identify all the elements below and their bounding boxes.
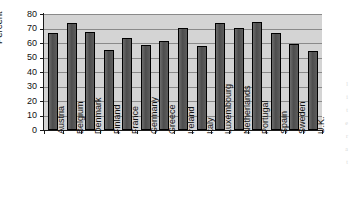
scan-artifact-mark: e bbox=[345, 119, 348, 127]
x-axis-tick-label: Denmark bbox=[94, 97, 103, 134]
y-axis-tick-label: 30 bbox=[27, 82, 37, 91]
scan-artifact-mark: a bbox=[345, 145, 348, 153]
scan-artifact-mark: r bbox=[346, 132, 348, 140]
y-axis-title: Percent bbox=[0, 11, 4, 44]
x-axis-tick-label: Austria bbox=[57, 106, 66, 134]
scan-artifact-mark: i bbox=[346, 93, 348, 101]
x-axis-tick-label: U.K. bbox=[317, 116, 326, 134]
y-axis-tick-label: 40 bbox=[27, 68, 37, 77]
scan-artifact-mark: t bbox=[346, 106, 348, 114]
x-axis-tick-label: Italy bbox=[206, 117, 215, 134]
y-axis-tick-label: 50 bbox=[27, 53, 37, 62]
x-axis-tick-label: Belgium bbox=[76, 101, 85, 134]
x-axis-tick-label: Netherlands bbox=[243, 85, 252, 134]
x-axis-tick-label: Portugal bbox=[261, 100, 270, 134]
x-axis-tick-label: Luxembourg bbox=[224, 84, 233, 134]
x-axis-tick-label: Finland bbox=[113, 104, 122, 134]
x-axis-tick bbox=[44, 131, 45, 134]
y-axis-tick-label: 80 bbox=[27, 10, 37, 19]
y-axis-tick-label: 0 bbox=[32, 126, 37, 135]
x-axis-tick-label: Germany bbox=[150, 97, 159, 134]
x-axis-tick-label: Greece bbox=[168, 104, 177, 134]
y-axis-tick-label: 20 bbox=[27, 97, 37, 106]
y-axis-tick-label: 70 bbox=[27, 24, 37, 33]
y-axis-tick-label: 10 bbox=[27, 111, 37, 120]
y-axis-tick-label: 60 bbox=[27, 39, 37, 48]
x-axis-tick-label: Ireland bbox=[187, 106, 196, 134]
scan-artifact-mark: l bbox=[346, 80, 348, 88]
scan-artifact-mark: t bbox=[346, 158, 348, 166]
bar-chart-figure: Percent 01020304050607080 AustriaBelgium… bbox=[0, 0, 349, 203]
x-axis-tick-label: Spain bbox=[280, 111, 289, 134]
x-axis-tick-label: France bbox=[131, 106, 140, 134]
x-axis-tick-label: Sweden bbox=[298, 101, 307, 134]
